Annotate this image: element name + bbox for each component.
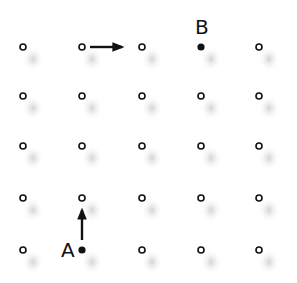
lattice-point bbox=[79, 93, 85, 99]
lattice-point bbox=[79, 44, 85, 50]
lattice-point bbox=[79, 195, 85, 201]
lattice-point bbox=[139, 143, 145, 149]
lattice-point bbox=[256, 93, 262, 99]
lattice-point bbox=[198, 93, 204, 99]
point-label-a: A bbox=[61, 240, 75, 260]
point-label-b: B bbox=[195, 17, 209, 37]
lattice-point bbox=[20, 195, 26, 201]
lattice-point bbox=[20, 143, 26, 149]
lattice-point bbox=[139, 44, 145, 50]
lattice-point bbox=[20, 247, 26, 253]
lattice-point bbox=[79, 143, 85, 149]
lattice-point bbox=[20, 44, 26, 50]
lattice-point bbox=[139, 93, 145, 99]
lattice-point bbox=[139, 195, 145, 201]
lattice-point bbox=[256, 195, 262, 201]
point-a bbox=[78, 246, 85, 253]
lattice-point bbox=[139, 247, 145, 253]
lattice-point bbox=[20, 93, 26, 99]
lattice-point bbox=[256, 143, 262, 149]
lattice-grid bbox=[0, 0, 297, 283]
point-shadow bbox=[200, 46, 222, 72]
lattice-point bbox=[198, 247, 204, 253]
lattice-point bbox=[256, 247, 262, 253]
point-b bbox=[197, 43, 204, 50]
lattice-point bbox=[198, 195, 204, 201]
point-shadow bbox=[81, 249, 103, 275]
lattice-point bbox=[198, 143, 204, 149]
lattice-point bbox=[256, 44, 262, 50]
